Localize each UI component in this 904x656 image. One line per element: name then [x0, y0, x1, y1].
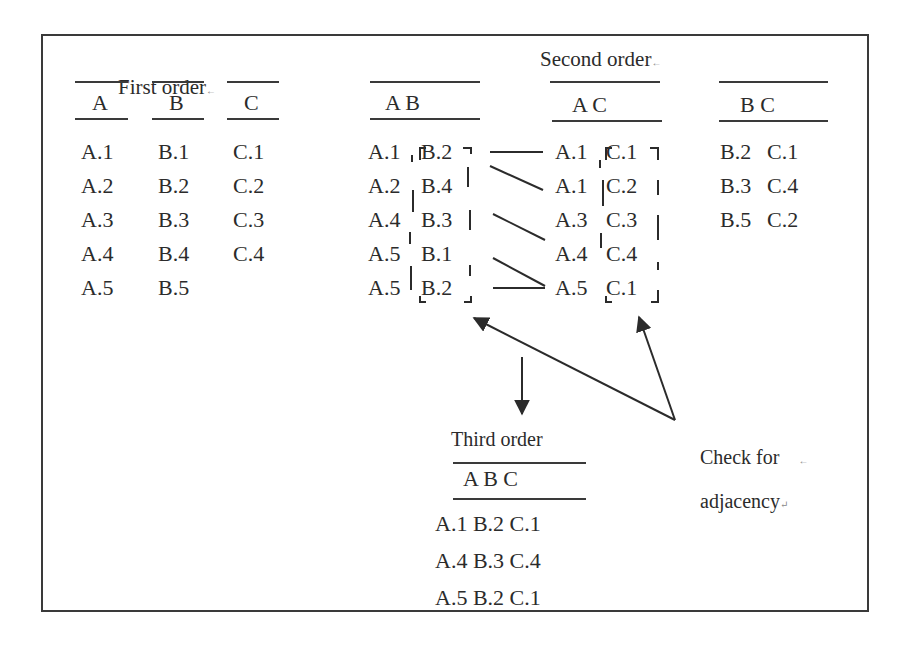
cell: C.3: [606, 203, 637, 237]
cell: C.1: [767, 135, 798, 169]
bc-top-rule: [719, 81, 828, 83]
third-order-rows: A.1 B.2 C.1 A.4 B.3 C.4 A.5 B.2 C.1: [435, 505, 541, 616]
first-order-b-top-rule: [152, 81, 204, 83]
cell: B.2: [720, 135, 751, 169]
first-order-header-a: A: [92, 90, 108, 116]
second-order-title-text: Second order: [540, 47, 651, 71]
cell: B.3: [158, 203, 189, 237]
cell: B.2: [421, 135, 452, 169]
third-order-header: A B C: [463, 466, 518, 492]
cell: B.2: [421, 271, 452, 305]
bc-header: B C: [740, 92, 775, 118]
third-order-top-rule: [453, 462, 586, 464]
cell: C.4: [767, 169, 798, 203]
cell: C.4: [233, 237, 264, 271]
cell: A.4 B.3 C.4: [435, 542, 541, 579]
cell: B.3: [421, 203, 452, 237]
paragraph-mark-icon: ←: [651, 57, 661, 68]
ab-header: A B: [385, 90, 420, 116]
first-order-c-bottom-rule: [227, 118, 279, 120]
paragraph-mark-icon: ←: [798, 455, 808, 466]
cell: B.3: [720, 169, 751, 203]
cell: C.1: [233, 135, 264, 169]
ab-top-rule: [370, 81, 480, 83]
annotation-text: adjacency: [700, 490, 780, 512]
first-order-a-top-rule: [75, 81, 128, 83]
ac-bottom-rule: [552, 120, 662, 122]
cell: B.5: [720, 203, 751, 237]
cell: A.4: [368, 203, 400, 237]
cell: C.3: [233, 203, 264, 237]
ac-table-col-a: A.1 A.1 A.3 A.4 A.5: [555, 135, 587, 305]
cell: A.1: [555, 169, 587, 203]
bc-table-col-b: B.2 B.3 B.5: [720, 135, 751, 237]
cell: A.3: [555, 203, 587, 237]
cell: A.5: [368, 271, 400, 305]
ac-top-rule: [550, 81, 660, 83]
first-order-column-c: C.1 C.2 C.3 C.4: [233, 135, 264, 271]
ab-bottom-rule: [370, 118, 480, 120]
cell: A.4: [555, 237, 587, 271]
cell: A.1 B.2 C.1: [435, 505, 541, 542]
annotation-line-2: adjacency↵: [700, 490, 788, 513]
cell: A.2: [368, 169, 400, 203]
ab-table-col-b: B.2 B.4 B.3 B.1 B.2: [421, 135, 452, 305]
cell: A.5: [81, 271, 113, 305]
first-order-b-bottom-rule: [152, 118, 204, 120]
second-order-title: Second order←: [540, 47, 661, 72]
cell: C.1: [606, 271, 637, 305]
cell: B.5: [158, 271, 189, 305]
cell: A.3: [81, 203, 113, 237]
first-order-header-b: B: [169, 90, 184, 116]
cell: A.1: [81, 135, 113, 169]
cell: C.1: [606, 135, 637, 169]
first-order-title: First order←: [118, 75, 216, 100]
ac-table-col-c: C.1 C.2 C.3 C.4 C.1: [606, 135, 637, 305]
cell: B.1: [421, 237, 452, 271]
cell: B.4: [158, 237, 189, 271]
cell: A.2: [81, 169, 113, 203]
cell: B.2: [158, 169, 189, 203]
cell: A.5 B.2 C.1: [435, 579, 541, 616]
annotation-line-1: Check for ←: [700, 446, 808, 469]
bc-bottom-rule: [719, 120, 828, 122]
first-order-c-top-rule: [227, 81, 279, 83]
cell: C.2: [606, 169, 637, 203]
first-order-header-c: C: [244, 90, 259, 116]
cell: C.2: [233, 169, 264, 203]
third-order-title: Third order: [451, 428, 543, 451]
cell: A.1: [368, 135, 400, 169]
cell: B.4: [421, 169, 452, 203]
cell: A.4: [81, 237, 113, 271]
cell: B.1: [158, 135, 189, 169]
cell: A.1: [555, 135, 587, 169]
annotation-text: Check for: [700, 446, 779, 468]
first-order-column-a: A.1 A.2 A.3 A.4 A.5: [81, 135, 113, 305]
cell: A.5: [368, 237, 400, 271]
third-order-bottom-rule: [453, 498, 586, 500]
ac-header: A C: [572, 92, 607, 118]
first-order-column-b: B.1 B.2 B.3 B.4 B.5: [158, 135, 189, 305]
return-mark-icon: ↵: [780, 499, 788, 510]
first-order-title-text: First order: [118, 75, 206, 99]
first-order-a-bottom-rule: [75, 118, 128, 120]
cell: C.2: [767, 203, 798, 237]
paragraph-mark-icon: ←: [206, 85, 216, 96]
ab-table-col-a: A.1 A.2 A.4 A.5 A.5: [368, 135, 400, 305]
bc-table-col-c: C.1 C.4 C.2: [767, 135, 798, 237]
cell: C.4: [606, 237, 637, 271]
cell: A.5: [555, 271, 587, 305]
